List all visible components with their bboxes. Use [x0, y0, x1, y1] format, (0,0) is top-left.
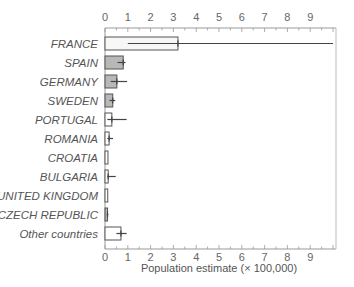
tick-label: 3 — [170, 11, 176, 23]
x-axis-title: Population estimate (× 100,000) — [141, 262, 297, 274]
category-label: Other countries — [19, 228, 98, 240]
tick-label: 9 — [307, 251, 313, 263]
category-label: PORTUGAL — [35, 114, 98, 126]
category-labels: FRANCESPAINGERMANYSWEDENPORTUGALROMANIAC… — [0, 38, 99, 240]
bottom-axis: 0123456789 — [102, 245, 336, 263]
bars — [105, 28, 336, 249]
tick-label: 8 — [284, 11, 290, 23]
category-label: ROMANIA — [44, 133, 98, 145]
tick-label: 1 — [125, 251, 131, 263]
bar-chart: 0123456789 0123456789 FRANCESPAINGERMANY… — [0, 0, 354, 287]
category-label: SPAIN — [64, 57, 98, 69]
tick-label: 0 — [102, 251, 108, 263]
tick-label: 4 — [193, 11, 199, 23]
bar-united-kingdom — [105, 189, 108, 202]
category-label: CZECH REPUBLIC — [0, 209, 99, 221]
tick-label: 7 — [262, 11, 268, 23]
tick-label: 1 — [125, 11, 131, 23]
top-axis: 0123456789 — [102, 11, 336, 32]
category-label: BULGARIA — [40, 171, 98, 183]
tick-label: 9 — [307, 11, 313, 23]
category-label: GERMANY — [40, 76, 99, 88]
bar-croatia — [105, 151, 108, 164]
tick-label: 2 — [148, 11, 154, 23]
tick-label: 6 — [239, 11, 245, 23]
tick-label: 0 — [102, 11, 108, 23]
category-label: CROATIA — [48, 152, 99, 164]
category-label: UNITED KINGDOM — [0, 190, 98, 202]
category-label: SWEDEN — [48, 95, 99, 107]
tick-label: 5 — [216, 11, 222, 23]
category-label: FRANCE — [51, 38, 99, 50]
